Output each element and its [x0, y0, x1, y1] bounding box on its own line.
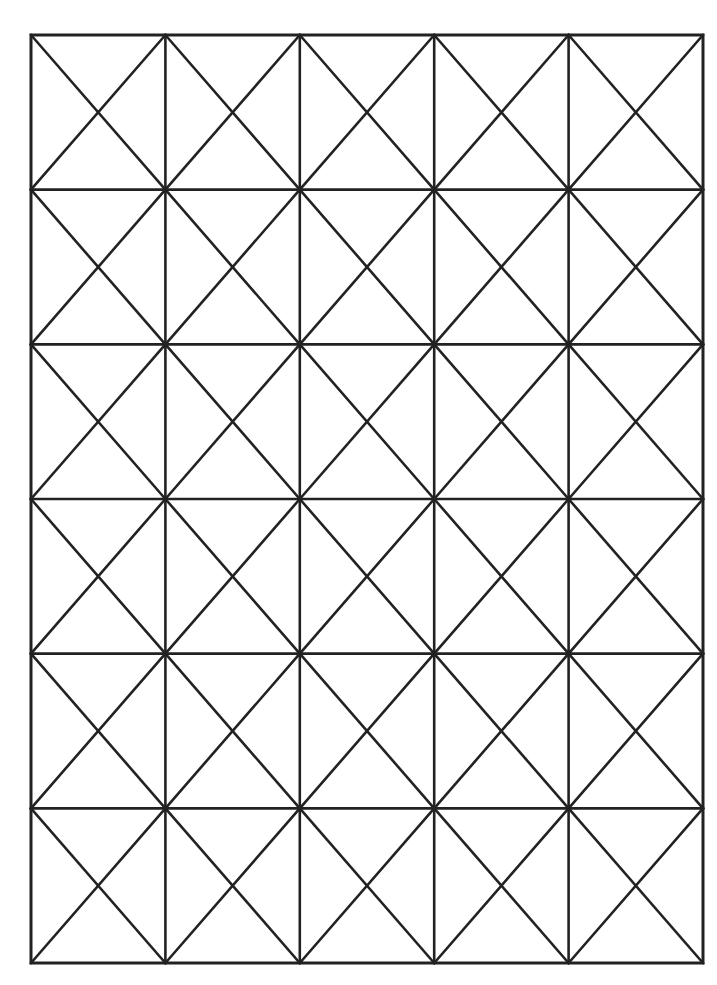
- diagram-canvas: [0, 0, 717, 985]
- grid-lines: [31, 35, 703, 963]
- triangle-grid: [0, 0, 717, 985]
